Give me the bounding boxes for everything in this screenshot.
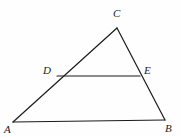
vertex-label-b: B [165, 123, 172, 134]
geometry-figure: A B C D E [0, 0, 181, 137]
vertex-label-d: D [43, 65, 51, 76]
vertex-label-a: A [4, 124, 11, 135]
figure-background [0, 0, 181, 137]
vertex-label-e: E [144, 65, 151, 76]
vertex-label-c: C [113, 8, 120, 19]
triangle-diagram-svg [0, 0, 181, 137]
